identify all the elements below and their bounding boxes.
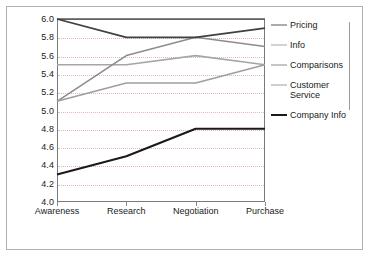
y-tick-label: 6.0 <box>41 15 54 24</box>
legend-line-icon <box>271 80 287 89</box>
legend-line-icon <box>271 60 287 69</box>
legend-item-label: Company Info <box>290 110 346 120</box>
legend-line-icon <box>271 110 287 119</box>
y-tick-label: 5.0 <box>41 106 54 115</box>
y-tick-label: 4.6 <box>41 143 54 152</box>
y-axis: 6.05.85.65.45.25.04.84.64.44.24.0 <box>18 19 54 202</box>
chart-figure: 6.05.85.65.45.25.04.84.64.44.24.0 Awaren… <box>0 0 369 256</box>
series-line <box>57 129 265 175</box>
series-line <box>57 65 265 102</box>
x-tick-label: Research <box>107 206 146 217</box>
x-tick-mark <box>57 202 58 206</box>
x-tick-label: Negotiation <box>173 206 219 217</box>
legend-line-icon <box>271 40 287 49</box>
y-tick-label: 5.2 <box>41 88 54 97</box>
x-tick-mark <box>196 202 197 206</box>
y-tick-label: 5.4 <box>41 69 54 78</box>
series-line <box>57 37 265 101</box>
legend-item-label: Pricing <box>290 20 318 30</box>
y-tick-label: 4.4 <box>41 161 54 170</box>
legend-item-label: Comparisons <box>290 60 343 70</box>
series-layer <box>57 19 265 202</box>
x-tick-label: Purchase <box>246 206 284 217</box>
legend-line-icon <box>271 20 287 29</box>
x-tick-label: Awareness <box>35 206 79 217</box>
y-tick-label: 4.8 <box>41 124 54 133</box>
y-tick-label: 5.8 <box>41 33 54 42</box>
legend-item-label: Customer Service <box>290 80 329 100</box>
x-axis: AwarenessResearchNegotiationPurchase <box>57 206 265 220</box>
legend-divider <box>349 22 350 110</box>
x-tick-mark <box>265 202 266 206</box>
x-tick-mark <box>126 202 127 206</box>
series-line <box>57 19 265 37</box>
series-line <box>57 56 265 65</box>
legend-item[interactable]: Company Info <box>271 110 363 120</box>
y-tick-label: 4.2 <box>41 179 54 188</box>
legend-item-label: Info <box>290 40 305 50</box>
y-tick-label: 5.6 <box>41 51 54 60</box>
